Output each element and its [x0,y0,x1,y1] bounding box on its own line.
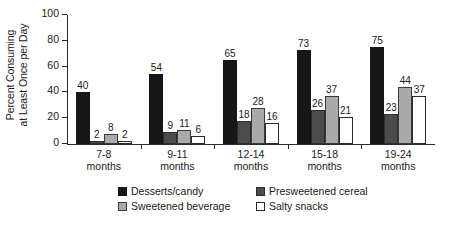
bar-value-label: 37 [326,84,337,96]
legend-item-sweetened-beverage[interactable]: Sweetened beverage [118,200,256,213]
black-filled-square-icon [118,187,127,196]
plot-area: 020406080100 402825491166518281673263721… [67,15,435,144]
bar[interactable]: 28 [251,108,265,144]
bar[interactable]: 9 [163,132,177,144]
bar[interactable]: 18 [237,121,251,144]
bar[interactable]: 8 [104,134,118,144]
bar-group: 65182816 [223,15,279,144]
bar-group-bars: 40282 [76,15,132,144]
bar[interactable]: 37 [325,96,339,144]
y-axis-tick-label: 80 [47,33,59,46]
bar-value-label: 37 [414,84,425,96]
x-axis-category-label-line: 15-18 [288,148,362,160]
bar[interactable]: 54 [149,74,163,144]
bar-value-label: 16 [266,111,277,123]
bar[interactable]: 26 [311,110,325,144]
bar-slot: 26 [311,15,325,144]
bar-group-bars: 549116 [149,15,205,144]
bar-value-label: 73 [298,38,309,50]
x-axis-category-label: 9-11months [141,148,215,172]
bar[interactable]: 75 [370,47,384,144]
bar-value-label: 2 [122,129,128,141]
bar[interactable]: 65 [223,60,237,144]
y-axis-tick: 60 [62,66,67,67]
x-axis-category-label: 12-14months [214,148,288,172]
y-axis-tick-label: 20 [47,110,59,123]
x-axis-category-label-line: months [214,160,288,172]
bar[interactable]: 6 [191,136,205,144]
legend-item-presweetened-cereal[interactable]: Presweetened cereal [256,185,368,198]
bar-value-label: 54 [151,62,162,74]
bar-slot: 37 [325,15,339,144]
bar-group-bars: 65182816 [223,15,279,144]
bar-group: 549116 [149,15,205,144]
bar-slot: 2 [90,15,104,144]
x-axis-category-label-line: 7-8 [67,148,141,160]
legend-item-label: Desserts/candy [131,185,203,198]
bar[interactable]: 44 [398,87,412,144]
bar-group: 40282 [76,15,132,144]
white-outlined-square-icon [256,202,265,211]
bar[interactable]: 2 [90,141,104,144]
bar-slot: 16 [265,15,279,144]
bar[interactable]: 16 [265,123,279,144]
dark-gray-filled-square-icon [256,187,265,196]
bar-group: 73263721 [297,15,353,144]
legend-item-label: Sweetened beverage [131,200,230,213]
y-axis-tick: 0 [62,143,67,144]
y-axis-tick: 100 [62,14,67,15]
bar-value-label: 8 [108,122,114,134]
y-axis-tick: 40 [62,91,67,92]
legend-item-label: Salty snacks [269,200,328,213]
bar-slot: 37 [412,15,426,144]
bar-slot: 28 [251,15,265,144]
x-axis-category-label: 7-8months [67,148,141,172]
bar-slot: 2 [118,15,132,144]
legend-item-desserts-candy[interactable]: Desserts/candy [118,185,256,198]
bar-group-bars: 75234437 [370,15,426,144]
y-axis-title-line-1: Percent Consuming [4,24,17,127]
bar-slot: 18 [237,15,251,144]
bar-value-label: 11 [179,118,189,130]
x-axis-line [67,144,435,145]
bar-value-label: 9 [168,120,174,132]
bar-slot: 73 [297,15,311,144]
bar-slot: 44 [398,15,412,144]
bar-value-label: 26 [312,98,323,110]
x-axis-category-label-line: months [141,160,215,172]
bar-group: 75234437 [370,15,426,144]
bar-slot: 54 [149,15,163,144]
x-axis-category-label: 19-24months [361,148,435,172]
bar-value-label: 28 [252,96,263,108]
bar[interactable]: 21 [339,117,353,144]
bar-value-label: 2 [94,129,100,141]
bar-chart: Percent Consuming at Least Once per Day … [0,0,456,229]
x-axis-category-label-line: 19-24 [361,148,435,160]
legend-item-label: Presweetened cereal [269,185,368,198]
bar[interactable]: 23 [384,114,398,144]
bar-slot: 75 [370,15,384,144]
x-axis-category-label-line: months [67,160,141,172]
bar[interactable]: 73 [297,50,311,144]
y-axis-title-line-2: at Least Once per Day [17,24,30,127]
bar[interactable]: 11 [177,130,191,144]
chart-legend: Desserts/candy Presweetened cereal Sweet… [118,185,418,215]
bar[interactable]: 37 [412,96,426,144]
y-axis-tick: 80 [62,40,67,41]
x-axis-category-label: 15-18months [288,148,362,172]
x-axis-category-label-line: months [361,160,435,172]
legend-item-salty-snacks[interactable]: Salty snacks [256,200,328,213]
bar[interactable]: 40 [76,92,90,144]
y-axis-tick: 20 [62,117,67,118]
y-axis-title: Percent Consuming at Least Once per Day [0,0,34,150]
bar-slot: 23 [384,15,398,144]
bar[interactable]: 2 [118,141,132,144]
legend-row: Sweetened beverage Salty snacks [118,200,418,213]
x-axis-category-label-line: months [288,160,362,172]
y-axis-tick-label: 0 [53,136,59,149]
bar-slot: 9 [163,15,177,144]
bar-value-label: 21 [340,105,351,117]
x-axis-category-label-line: 9-11 [141,148,215,160]
light-gray-filled-square-icon [118,202,127,211]
bar-value-label: 40 [77,80,88,92]
